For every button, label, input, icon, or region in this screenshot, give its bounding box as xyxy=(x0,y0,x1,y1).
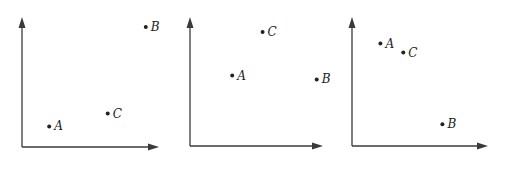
x-axis-arrow-icon xyxy=(312,143,323,150)
point-label-b: B xyxy=(446,117,456,131)
scatter-figure: ABCABCABC xyxy=(0,0,511,173)
scatter-panel-1: ABC xyxy=(19,17,160,151)
x-axis-arrow-icon xyxy=(148,144,159,151)
scatter-panel-3: ABC xyxy=(349,17,489,150)
x-axis-arrow-icon xyxy=(477,143,488,150)
point-b xyxy=(144,25,148,29)
point-a xyxy=(230,74,234,78)
point-c xyxy=(106,112,110,116)
y-axis-arrow-icon xyxy=(19,17,26,28)
y-axis-arrow-icon xyxy=(187,17,194,28)
point-c xyxy=(401,51,405,55)
point-b xyxy=(440,122,444,126)
scatter-panel-2: ABC xyxy=(187,17,331,150)
point-a xyxy=(378,42,382,46)
point-label-c: C xyxy=(268,25,277,39)
point-label-a: A xyxy=(53,119,63,133)
point-b xyxy=(315,77,319,81)
point-a xyxy=(47,124,51,128)
point-label-a: A xyxy=(384,37,394,51)
point-c xyxy=(261,30,265,34)
point-label-a: A xyxy=(236,69,246,83)
point-label-b: B xyxy=(150,20,160,34)
point-label-b: B xyxy=(321,72,331,86)
point-label-c: C xyxy=(408,46,417,60)
y-axis-arrow-icon xyxy=(349,17,356,28)
point-label-c: C xyxy=(113,107,122,121)
